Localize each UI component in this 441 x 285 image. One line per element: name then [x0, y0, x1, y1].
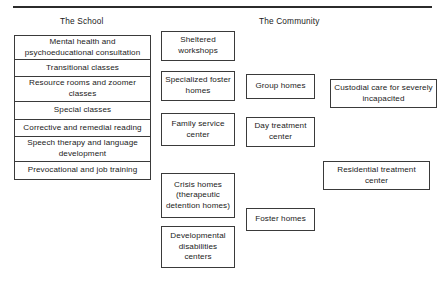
organizational-services-diagram: The School The Community Mental health a… — [0, 0, 441, 285]
school-service-box: Special classes — [15, 102, 150, 120]
community-service-box: Residential treatment center — [323, 161, 430, 190]
school-service-box: Speech therapy and language development — [15, 137, 150, 162]
community-service-box: Developmental disabilities centers — [161, 226, 235, 268]
school-service-box: Corrective and remedial reading — [15, 120, 150, 137]
school-service-box: Resource rooms and zoomer classes — [15, 77, 150, 102]
school-service-box: Prevocational and job training — [15, 162, 150, 179]
community-service-box: Specialized foster homes — [161, 71, 235, 101]
school-service-box: Transitional classes — [15, 60, 150, 77]
header-rule — [13, 6, 432, 8]
community-service-box: Day treatment center — [246, 117, 315, 147]
column-title-community: The Community — [259, 16, 320, 26]
community-service-box: Group homes — [246, 74, 315, 99]
school-service-box: Mental health and psychoeducational cons… — [15, 36, 150, 60]
community-service-box: Custodial care for severely incapacited — [330, 79, 437, 108]
column-title-school: The School — [60, 16, 103, 26]
community-service-box: Foster homes — [246, 208, 315, 231]
community-service-box: Crisis homes (therapeutic detention home… — [161, 173, 235, 218]
community-service-box: Family service center — [161, 113, 235, 146]
community-service-box: Sheltered workshops — [161, 31, 235, 61]
school-services-stack: Mental health and psychoeducational cons… — [14, 35, 151, 180]
